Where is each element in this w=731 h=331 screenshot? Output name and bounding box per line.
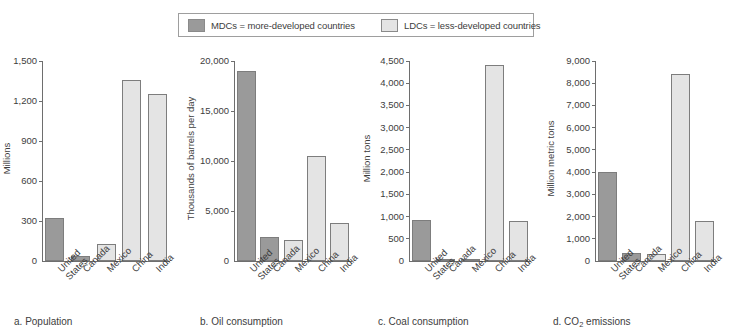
- bar-a-united-states[interactable]: [45, 218, 64, 261]
- y-tick-label: 1,200: [13, 96, 37, 106]
- plot-area-a: Millions03006009001,2001,500: [2, 56, 182, 261]
- y-tick-label: 500: [388, 234, 404, 244]
- chart-caption-c: c. Coal consumption: [378, 316, 469, 327]
- y-tick-mark: [406, 238, 410, 239]
- y-tick-mark: [231, 61, 235, 62]
- bar-group-b: [237, 61, 349, 261]
- legend-label-ldc: LDCs = less-developed countries: [404, 20, 541, 31]
- y-tick-d-9: 9,000: [545, 56, 596, 66]
- x-axis-labels-b: United StatesCanadaMexicoChinaIndia: [186, 265, 366, 323]
- chart-panel-coal-consumption: Million tons05001,0001,5002,0002,5003,00…: [362, 56, 546, 331]
- caption-main: Coal consumption: [389, 316, 469, 327]
- y-tick-d-1: 1,000: [545, 234, 596, 244]
- chart-caption-a: a. Population: [14, 316, 72, 327]
- y-tick-label: 3,500: [380, 100, 404, 110]
- caption-prefix: d. CO: [553, 316, 579, 327]
- y-tick-a-2: 600: [2, 176, 43, 186]
- y-tick-d-5: 5,000: [545, 145, 596, 155]
- x-axis-labels-a: United StatesCanadaMexicoChinaIndia: [2, 265, 182, 323]
- y-tick-label: 3,000: [566, 189, 590, 199]
- y-tick-b-1: 5,000: [186, 206, 235, 216]
- y-tick-label: 900: [21, 136, 37, 146]
- caption-prefix: c.: [378, 316, 389, 327]
- plot-area-c: Million tons05001,0001,5002,0002,5003,00…: [362, 56, 546, 261]
- y-tick-label: 1,000: [380, 212, 404, 222]
- y-tick-a-4: 1,200: [2, 96, 43, 106]
- y-tick-a-3: 900: [2, 136, 43, 146]
- plot-area-d: Million metric tons01,0002,0003,0004,000…: [545, 56, 731, 261]
- y-tick-label: 600: [21, 176, 37, 186]
- legend-entry-mdc: MDCs = more-developed countries: [188, 19, 355, 32]
- y-tick-mark: [39, 221, 43, 222]
- legend-swatch-ldc-icon: [381, 19, 398, 32]
- y-tick-mark: [592, 61, 596, 62]
- y-tick-label: 5,000: [566, 145, 590, 155]
- y-tick-c-1: 500: [362, 234, 410, 244]
- plot-area-b: Thousands of barrels per day05,00010,000…: [186, 56, 366, 261]
- y-tick-label: 5,000: [205, 206, 229, 216]
- y-tick-mark: [231, 111, 235, 112]
- y-tick-a-5: 1,500: [2, 56, 43, 66]
- y-tick-c-5: 2,500: [362, 145, 410, 155]
- legend-label-mdc: MDCs = more-developed countries: [211, 20, 355, 31]
- y-tick-label: 1,500: [13, 56, 37, 66]
- y-tick-b-2: 10,000: [186, 156, 235, 166]
- bar-a-india[interactable]: [148, 94, 167, 261]
- legend: MDCs = more-developed countries LDCs = l…: [178, 13, 534, 37]
- y-tick-c-8: 4,000: [362, 78, 410, 88]
- y-tick-mark: [592, 105, 596, 106]
- y-tick-mark: [406, 216, 410, 217]
- y-tick-label: 4,000: [566, 167, 590, 177]
- y-tick-mark: [39, 101, 43, 102]
- y-tick-mark: [406, 149, 410, 150]
- y-tick-mark: [406, 105, 410, 106]
- y-tick-mark: [592, 194, 596, 195]
- y-tick-mark: [592, 216, 596, 217]
- bar-b-china[interactable]: [307, 156, 326, 261]
- x-axis-labels-c: United StatesCanadaMexicoChinaIndia: [362, 265, 546, 323]
- y-tick-d-4: 4,000: [545, 167, 596, 177]
- y-tick-label: 300: [21, 216, 37, 226]
- y-tick-label: 15,000: [200, 106, 229, 116]
- y-tick-c-4: 2,000: [362, 167, 410, 177]
- chart-panel-oil-consumption: Thousands of barrels per day05,00010,000…: [186, 56, 366, 331]
- x-axis-labels-d: United StatesCanadaMexicoChinaIndia: [545, 265, 731, 323]
- legend-entry-ldc: LDCs = less-developed countries: [381, 19, 541, 32]
- y-tick-c-6: 3,000: [362, 123, 410, 133]
- bar-c-china[interactable]: [485, 65, 504, 261]
- y-tick-mark: [231, 161, 235, 162]
- y-tick-label: 2,000: [566, 212, 590, 222]
- y-tick-mark: [406, 194, 410, 195]
- bar-b-united-states[interactable]: [237, 71, 256, 261]
- y-axis-line-c: [409, 61, 410, 261]
- bar-group-d: [598, 61, 714, 261]
- y-tick-label: 8,000: [566, 78, 590, 88]
- y-tick-mark: [592, 83, 596, 84]
- bar-group-a: [45, 61, 167, 261]
- y-axis-line-a: [42, 61, 43, 261]
- legend-swatch-mdc-icon: [188, 19, 205, 32]
- y-tick-label: 9,000: [566, 56, 590, 66]
- y-axis-line-d: [595, 61, 596, 261]
- bar-a-china[interactable]: [122, 80, 141, 261]
- y-tick-mark: [592, 238, 596, 239]
- y-tick-mark: [406, 83, 410, 84]
- y-tick-a-1: 300: [2, 216, 43, 226]
- y-tick-label: 6,000: [566, 123, 590, 133]
- y-tick-label: 2,500: [380, 145, 404, 155]
- y-tick-d-6: 6,000: [545, 123, 596, 133]
- y-tick-c-9: 4,500: [362, 56, 410, 66]
- y-tick-mark: [406, 172, 410, 173]
- y-tick-mark: [592, 172, 596, 173]
- bar-d-china[interactable]: [671, 74, 690, 261]
- y-tick-mark: [592, 149, 596, 150]
- y-tick-mark: [406, 127, 410, 128]
- bar-d-united-states[interactable]: [598, 172, 617, 261]
- caption-prefix: b.: [200, 316, 211, 327]
- y-tick-label: 1,000: [566, 234, 590, 244]
- bar-c-united-states[interactable]: [412, 220, 431, 261]
- y-tick-b-3: 15,000: [186, 106, 235, 116]
- chart-panel-co2-emissions: Million metric tons01,0002,0003,0004,000…: [545, 56, 731, 331]
- bar-group-c: [412, 61, 528, 261]
- y-tick-d-2: 2,000: [545, 212, 596, 222]
